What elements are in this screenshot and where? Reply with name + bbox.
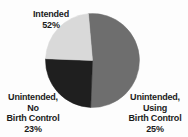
pie-label-no-bc-percent: 23% (0, 124, 66, 135)
pie-label-no-bc-line2: No (0, 103, 66, 114)
pie-label-intended-category: Intended (19, 9, 83, 20)
pie-chart-figure: Intended 52% Unintended, No Birth Contro… (0, 0, 188, 137)
pie-label-unintended-using-birth-control: Unintended, Using Birth Control 25% (122, 92, 188, 134)
pie-label-no-bc-line3: Birth Control (0, 113, 66, 124)
pie-label-unintended-no-birth-control: Unintended, No Birth Control 23% (0, 92, 66, 134)
pie-label-intended: Intended 52% (19, 9, 83, 30)
pie-label-using-bc-percent: 25% (122, 124, 188, 135)
pie-label-using-bc-line2: Using (122, 103, 188, 114)
pie-label-using-bc-line1: Unintended, (122, 92, 188, 103)
pie-label-intended-percent: 52% (19, 20, 83, 31)
pie-label-using-bc-line3: Birth Control (122, 113, 188, 124)
pie-label-no-bc-line1: Unintended, (0, 92, 66, 103)
